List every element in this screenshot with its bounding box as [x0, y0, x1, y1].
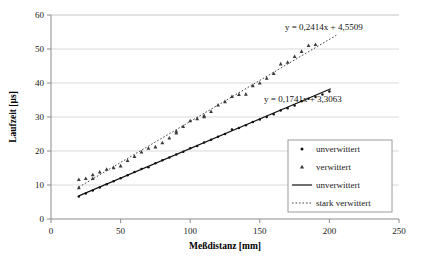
data-point	[231, 128, 234, 131]
data-point	[196, 145, 199, 148]
y-axis-tick-label: 30	[35, 112, 45, 122]
data-point	[175, 153, 178, 156]
x-axis-tick-label: 100	[183, 226, 197, 236]
y-axis-tick-label: 40	[35, 78, 45, 88]
data-point	[238, 127, 241, 130]
data-point	[252, 121, 255, 124]
x-axis-tick-label: 200	[323, 226, 337, 236]
x-axis-tick-label: 0	[49, 226, 54, 236]
data-point	[92, 189, 95, 192]
legend-item-label: unverwittert	[316, 180, 360, 190]
data-point	[259, 118, 262, 121]
chart-container: 0102030405060050100150200250Meßdistanz […	[0, 0, 426, 268]
y-axis-title: Laufzeit [µs]	[8, 91, 18, 143]
data-point	[210, 139, 213, 142]
y-axis-tick-label: 20	[35, 146, 45, 156]
x-axis-tick-label: 150	[253, 226, 267, 236]
data-point	[328, 90, 331, 93]
x-axis-tick-label: 50	[116, 226, 126, 236]
data-point	[203, 141, 206, 144]
data-point	[182, 150, 185, 153]
data-point	[286, 107, 289, 110]
equation-annotation: y = 0,2414x + 4,5509	[285, 22, 363, 32]
data-point	[217, 135, 220, 138]
equation-annotation: y = 0,1741x + 3,3063	[264, 94, 342, 104]
y-axis-tick-label: 60	[35, 10, 45, 20]
data-point	[245, 124, 248, 127]
data-point	[266, 116, 269, 119]
data-point	[119, 177, 122, 180]
data-point	[133, 171, 136, 174]
data-point	[189, 147, 192, 150]
data-point	[98, 186, 101, 189]
data-point	[168, 156, 171, 159]
data-point	[112, 180, 115, 183]
data-point	[140, 168, 143, 171]
data-point	[78, 195, 81, 198]
data-point	[85, 192, 88, 195]
legend-marker-dot-icon	[301, 148, 304, 151]
data-point	[293, 104, 296, 107]
y-axis-tick-label: 0	[40, 214, 45, 224]
data-point	[105, 183, 108, 186]
legend-item-label: unverwittert	[316, 144, 360, 154]
y-axis-tick-label: 10	[35, 180, 45, 190]
data-point	[224, 133, 227, 136]
x-axis-title: Meßdistanz [mm]	[189, 241, 261, 251]
data-point	[279, 109, 282, 112]
y-axis-tick-label: 50	[35, 44, 45, 54]
data-point	[161, 159, 164, 162]
data-point	[154, 162, 157, 165]
legend-item-label: stark verwittert	[316, 198, 371, 208]
laufzeit-messdistanz-scatter-chart: 0102030405060050100150200250Meßdistanz […	[0, 0, 426, 268]
data-point	[147, 166, 150, 169]
data-point	[272, 113, 275, 116]
x-axis-tick-label: 250	[392, 226, 406, 236]
data-point	[126, 174, 129, 177]
legend-item-label: verwittert	[316, 162, 351, 172]
